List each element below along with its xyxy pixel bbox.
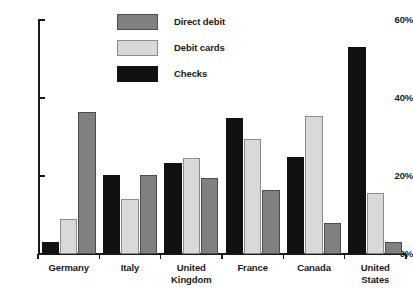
bar-united-states-direct-debit bbox=[385, 242, 403, 254]
bar-united-states-debit-cards bbox=[367, 193, 385, 254]
bar-united-states-checks bbox=[348, 47, 366, 254]
bar-germany-debit-cards bbox=[60, 219, 78, 254]
x-axis-tick bbox=[99, 254, 101, 259]
bar-italy-direct-debit bbox=[140, 175, 158, 254]
bar-canada-checks bbox=[287, 157, 305, 255]
bar-chart: 0%20%40%60% GermanyItalyUnitedKingdomFra… bbox=[0, 0, 413, 300]
x-axis-tick bbox=[221, 254, 223, 259]
plot-area bbox=[38, 20, 406, 254]
x-axis-label-canada: Canada bbox=[283, 262, 344, 274]
bar-france-debit-cards bbox=[244, 139, 262, 254]
x-axis-label-italy: Italy bbox=[99, 262, 160, 274]
x-axis-label-germany: Germany bbox=[38, 262, 99, 274]
x-axis-tick bbox=[344, 254, 346, 259]
legend-swatch-checks bbox=[117, 66, 158, 82]
x-axis-label-united-states: UnitedStates bbox=[345, 262, 406, 285]
legend-label-direct-debit: Direct debit bbox=[174, 16, 225, 27]
legend-swatch-direct-debit bbox=[117, 14, 158, 30]
bar-italy-debit-cards bbox=[121, 199, 139, 254]
x-axis-label-united-kingdom: UnitedKingdom bbox=[161, 262, 222, 285]
bar-united-kingdom-direct-debit bbox=[201, 178, 219, 254]
bar-canada-debit-cards bbox=[305, 116, 323, 254]
x-axis-tick bbox=[37, 254, 39, 259]
bar-canada-direct-debit bbox=[324, 223, 342, 254]
bar-united-kingdom-checks bbox=[164, 163, 182, 254]
legend-swatch-debit-cards bbox=[117, 40, 158, 56]
bar-italy-checks bbox=[103, 175, 121, 254]
bar-france-direct-debit bbox=[262, 190, 280, 254]
bar-france-checks bbox=[226, 118, 244, 255]
legend-label-checks: Checks bbox=[174, 68, 207, 79]
x-axis-tick bbox=[405, 254, 407, 259]
x-axis-tick bbox=[283, 254, 285, 259]
legend-label-debit-cards: Debit cards bbox=[174, 42, 225, 53]
bar-germany-checks bbox=[42, 242, 60, 254]
bar-united-kingdom-debit-cards bbox=[183, 158, 201, 254]
bar-germany-direct-debit bbox=[78, 112, 96, 254]
x-axis-label-france: France bbox=[222, 262, 283, 274]
x-axis-tick bbox=[160, 254, 162, 259]
